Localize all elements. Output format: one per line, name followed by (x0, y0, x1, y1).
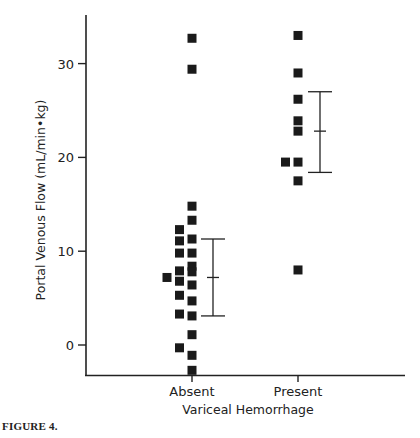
error-bars (201, 92, 332, 316)
x-tick-label-absent: Absent (169, 384, 214, 399)
data-point-present (294, 31, 303, 40)
data-point-absent (175, 225, 184, 234)
data-point-absent (188, 249, 197, 258)
data-point-absent (175, 310, 184, 319)
data-point-absent (175, 249, 184, 258)
y-ticks: 0102030 (57, 57, 86, 353)
data-point-absent (188, 351, 197, 360)
x-axis-title: Variceal Hemorrhage (182, 402, 314, 417)
data-point-absent (175, 266, 184, 275)
figure-caption: FIGURE 4. (2, 420, 58, 432)
data-point-absent (188, 280, 197, 289)
data-point-absent (188, 202, 197, 211)
y-tick-label: 0 (66, 338, 74, 353)
data-point-absent (188, 34, 197, 43)
scatter-chart: 0102030 AbsentPresent Portal Venous Flow… (0, 0, 420, 438)
data-point-absent (188, 267, 197, 276)
axes (85, 15, 405, 376)
x-ticks: AbsentPresent (169, 375, 322, 399)
data-point-absent (188, 366, 197, 375)
data-point-absent (188, 216, 197, 225)
data-point-absent (175, 277, 184, 286)
data-point-absent (175, 236, 184, 245)
data-points (163, 31, 303, 375)
data-point-absent (188, 296, 197, 305)
y-tick-label: 10 (57, 244, 74, 259)
data-point-present (281, 158, 290, 167)
data-point-present (294, 158, 303, 167)
y-tick-label: 30 (57, 57, 74, 72)
data-point-absent (163, 273, 172, 282)
data-point-present (294, 127, 303, 136)
data-point-present (294, 95, 303, 104)
data-point-absent (188, 311, 197, 320)
data-point-absent (175, 291, 184, 300)
x-tick-label-present: Present (274, 384, 323, 399)
data-point-present (294, 68, 303, 77)
y-tick-label: 20 (57, 150, 74, 165)
y-axis-title: Portal Venous Flow (mL/min•kg) (33, 100, 48, 301)
data-point-absent (188, 330, 197, 339)
data-point-absent (188, 65, 197, 74)
data-point-absent (188, 235, 197, 244)
data-point-present (294, 265, 303, 274)
data-point-present (294, 176, 303, 185)
data-point-present (294, 116, 303, 125)
data-point-absent (175, 343, 184, 352)
